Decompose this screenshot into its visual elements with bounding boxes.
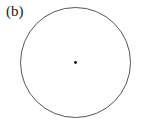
circle-diagram (0, 0, 142, 127)
center-point (74, 61, 77, 64)
